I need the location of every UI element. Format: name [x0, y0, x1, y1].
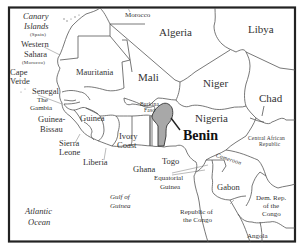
label-algeria: Algeria — [159, 27, 192, 38]
benin-pointer-line — [171, 118, 180, 130]
label-eq-guinea: Guinea — [160, 184, 180, 191]
label-liberia: Liberia — [83, 158, 108, 167]
label-guinea-bissau-2: Bissau — [40, 125, 63, 134]
label-chad: Chad — [259, 93, 282, 104]
label-nigeria: Nigeria — [195, 113, 228, 124]
label-guinea-bissau-1: Guinea- — [38, 115, 65, 124]
label-verde: Verde — [10, 77, 30, 86]
label-canary: Canary — [23, 12, 49, 21]
label-morocco-paren: (Morocco) — [22, 60, 45, 65]
label-roc-2: the Congo — [183, 217, 212, 224]
label-equatorial: Equatorial — [154, 175, 183, 182]
label-spain: (Spain) — [30, 32, 46, 37]
label-car-2: Republic — [259, 142, 280, 148]
label-mali: Mali — [138, 72, 159, 83]
label-leone: Leone — [59, 148, 80, 157]
label-gambia: Gambia — [30, 105, 52, 112]
label-drc-2: of the — [263, 203, 279, 210]
west-africa-map: Canary Islands (Spain) Morocco Algeria L… — [0, 0, 299, 248]
label-togo: Togo — [162, 157, 179, 166]
label-libya: Libya — [248, 24, 274, 35]
label-morocco: Morocco — [125, 12, 150, 19]
label-coast: Coast — [117, 141, 136, 150]
label-gulf-of: Gulf of — [110, 194, 130, 201]
label-the: The — [37, 97, 48, 104]
label-gulf-guinea: Guinea — [110, 203, 131, 210]
label-benin: Benin — [183, 129, 218, 143]
label-senegal: Senegal — [32, 87, 59, 96]
label-faso: Faso — [144, 108, 155, 114]
label-mauritania: Mauritania — [76, 68, 113, 77]
label-atlantic: Atlantic — [25, 207, 52, 216]
label-ghana: Ghana — [133, 165, 155, 174]
label-niger: Niger — [203, 78, 228, 89]
label-gabon: Gabon — [217, 183, 240, 192]
label-drc-1: Dem. Rep. — [256, 195, 286, 202]
label-drc-3: Congo — [262, 211, 281, 218]
label-islands: Islands — [24, 22, 49, 31]
label-roc-1: Republic of — [180, 209, 213, 216]
label-angola: Angola — [247, 233, 268, 240]
label-ocean: Ocean — [28, 218, 50, 227]
label-sahara: Sahara — [24, 50, 47, 59]
label-western: Western — [21, 40, 49, 49]
label-guinea: Guinea — [80, 114, 105, 123]
